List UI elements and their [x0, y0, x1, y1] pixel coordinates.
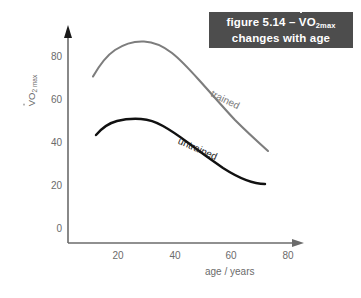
x-tick-label-40: 40 — [163, 250, 187, 261]
y-tick-label-20: 20 — [40, 180, 62, 191]
y-axis-title-v: V — [26, 100, 37, 106]
series-line-untrained — [96, 119, 265, 184]
x-tick-label-80: 80 — [276, 250, 300, 261]
y-tick-label-60: 60 — [40, 94, 62, 105]
figure-title-line1: figure 5.14 – VO2max — [226, 15, 335, 31]
y-axis — [64, 25, 72, 243]
figure-title-subscript: 2max — [316, 21, 336, 30]
x-tick-label-60: 60 — [219, 250, 243, 261]
y-tick-label-40: 40 — [40, 137, 62, 148]
figure-container: figure 5.14 – VO2max changes with age 80… — [0, 0, 361, 298]
figure-title-line2: changes with age — [232, 31, 330, 46]
v-dot-glyph: V — [299, 15, 307, 30]
y-axis-title: VO2 max — [26, 55, 37, 127]
x-axis — [68, 239, 304, 247]
y-axis-title-subscript: 2 max — [30, 75, 37, 93]
figure-title-o: O — [307, 16, 316, 28]
y-axis-v-dot-glyph: V — [26, 100, 37, 106]
figure-title-banner: figure 5.14 – VO2max changes with age — [209, 12, 353, 48]
y-tick-label-80: 80 — [40, 51, 62, 62]
x-axis-title: age / years — [205, 266, 254, 277]
y-tick-label-0: 0 — [40, 223, 62, 234]
figure-title-prefix: figure 5.14 – — [226, 16, 298, 28]
figure-title-v: V — [299, 16, 307, 28]
x-tick-label-20: 20 — [106, 250, 130, 261]
